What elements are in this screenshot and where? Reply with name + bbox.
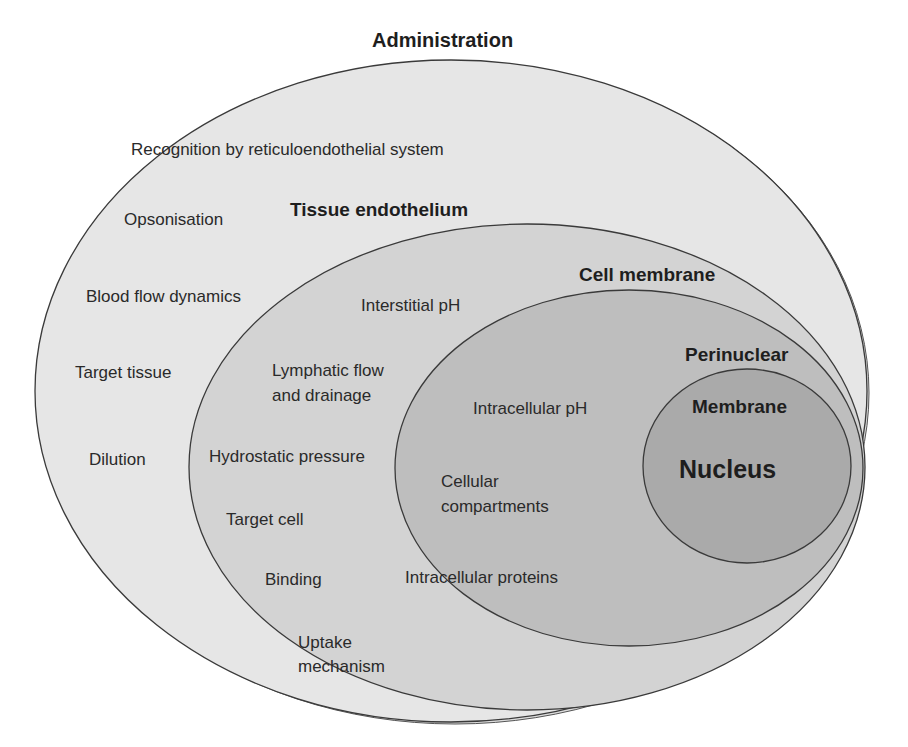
label-recognition: Recognition by reticuloendothelial syste… (131, 139, 444, 161)
perinuclear-heading: Perinuclear (685, 344, 789, 366)
label-interstitial-ph: Interstitial pH (361, 295, 460, 317)
label-and-drainage: and drainage (272, 385, 371, 407)
administration-heading: Administration (372, 29, 513, 51)
label-lymphatic-flow: Lymphatic flow (272, 360, 384, 382)
label-blood-flow: Blood flow dynamics (86, 286, 241, 308)
label-dilution: Dilution (89, 449, 146, 471)
label-target-tissue: Target tissue (75, 362, 171, 384)
tissue-endothelium-heading: Tissue endothelium (290, 199, 468, 221)
label-cellular: Cellular (441, 471, 499, 493)
label-compartments: compartments (441, 496, 549, 518)
label-mechanism: mechanism (298, 656, 385, 678)
label-opsonisation: Opsonisation (124, 209, 223, 231)
label-intracellular-proteins: Intracellular proteins (405, 567, 558, 589)
label-target-cell: Target cell (226, 509, 303, 531)
label-intracellular-ph: Intracellular pH (473, 398, 587, 420)
label-hydrostatic: Hydrostatic pressure (209, 446, 365, 468)
label-uptake: Uptake (298, 632, 352, 654)
label-binding: Binding (265, 569, 322, 591)
membrane-heading: Membrane (692, 396, 787, 418)
cell-membrane-heading: Cell membrane (579, 264, 715, 286)
nucleus-heading: Nucleus (679, 458, 776, 480)
